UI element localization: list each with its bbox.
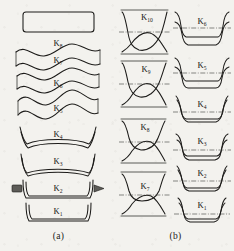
panel-a-drawing: K8 K7 K6 K5 [0,0,117,231]
panel-b: K10 K9 K8 [117,0,234,251]
stage-b-k3-label: K3 [197,136,206,147]
stage-b-k7-label: K7 [140,181,149,192]
roll-marker-right [94,185,104,192]
stage-a-k3: K3 [21,154,95,176]
stage-b-k9-label: K9 [141,64,150,75]
stage-a-k1: K1 [26,203,91,221]
stage-a-k4-label: K4 [53,129,62,140]
figure-roll-forming-flower-pattern: K8 K7 K6 K5 [0,0,234,251]
stage-a-k2-label: K2 [53,183,62,194]
stage-b-k10-label: K10 [141,12,153,23]
stage-b-k1-label: K1 [197,200,206,211]
stage-a-k7-label: K7 [53,55,62,66]
caption-panel-a: (a) [0,231,117,241]
stage-a-k5-label: K5 [53,103,62,114]
stage-b-k7: K7 [119,172,170,216]
stage-b-k1: K1 [174,198,230,222]
stage-b-k5: K5 [173,58,231,88]
stage-a-k8: K8 [23,12,94,49]
stage-a-k1-label: K1 [53,206,62,217]
stage-a-k2: K2 [12,180,104,198]
stage-b-k9: K9 [119,61,171,107]
stage-a-k5: K5 [18,90,98,119]
panel-b-drawing: K10 K9 K8 [117,0,234,231]
stage-b-k6-label: K6 [197,16,206,27]
stage-b-k3: K3 [173,134,231,160]
roll-marker-left [12,185,22,192]
stage-b-k8-label: K8 [140,122,149,133]
panel-a: K8 K7 K6 K5 [0,0,117,251]
stage-b-k2: K2 [173,166,231,191]
stage-b-k2-label: K2 [197,168,206,179]
stage-a-k4: K4 [20,127,96,148]
stage-a-k6-label: K6 [53,78,62,89]
stage-b-k5-label: K5 [197,60,206,71]
stage-a-k3-label: K3 [53,156,62,167]
stage-a-k6: K6 [17,68,99,93]
stage-b-k4: K4 [173,96,231,122]
stage-b-k8: K8 [119,119,170,163]
stage-b-k6: K6 [173,12,231,45]
stage-b-k10: K10 [119,10,171,54]
caption-panel-b: (b) [117,231,234,241]
stage-b-k4-label: K4 [197,99,206,110]
